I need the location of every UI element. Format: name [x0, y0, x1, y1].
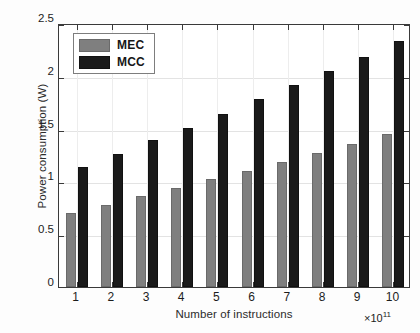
y-tick-label: 1 — [18, 170, 54, 182]
x-tick-label: 3 — [143, 290, 150, 304]
bar-mcc-2 — [113, 154, 123, 287]
x-tick-mark — [77, 25, 78, 30]
legend-label-mcc: MCC — [117, 55, 145, 69]
x-tick-mark — [323, 25, 324, 30]
x-tick-label: 1 — [72, 290, 79, 304]
y-tick-mark — [404, 236, 409, 237]
y-tick-label: 2 — [18, 65, 54, 77]
x-tick-label: 2 — [107, 290, 114, 304]
x-tick-label: 9 — [354, 290, 361, 304]
y-tick-mark — [59, 236, 64, 237]
plot-area: MEC MCC — [58, 24, 410, 288]
x-tick-label: 4 — [178, 290, 185, 304]
y-tick-mark — [59, 131, 64, 132]
exponent-prefix: ×10 — [364, 312, 383, 324]
bar-mcc-8 — [324, 71, 334, 287]
y-tick-mark — [404, 131, 409, 132]
x-tick-label: 10 — [386, 290, 399, 304]
x-axis-title: Number of instructions — [58, 308, 410, 320]
x-tick-mark — [217, 25, 218, 30]
legend-label-mec: MEC — [117, 38, 144, 52]
bar-mec-2 — [101, 205, 111, 287]
y-tick-label: 0 — [18, 276, 54, 288]
x-tick-mark — [288, 25, 289, 30]
chart-legend: MEC MCC — [73, 33, 155, 74]
legend-swatch-mcc-icon — [79, 56, 110, 69]
x-axis-tick-labels: 12345678910 — [58, 290, 410, 308]
x-tick-label: 8 — [319, 290, 326, 304]
x-tick-label: 6 — [248, 290, 255, 304]
bar-mec-4 — [171, 188, 181, 287]
bar-mec-7 — [277, 162, 287, 287]
x-tick-label: 7 — [283, 290, 290, 304]
exponent-power: 11 — [383, 310, 391, 319]
legend-swatch-mec-icon — [79, 39, 110, 52]
bar-mcc-10 — [394, 41, 404, 287]
x-tick-mark — [393, 25, 394, 30]
bar-mec-10 — [382, 134, 392, 287]
y-tick-label: 0.5 — [18, 223, 54, 235]
bar-mcc-1 — [78, 167, 88, 287]
legend-item-mcc: MCC — [79, 55, 145, 69]
y-tick-mark — [59, 183, 64, 184]
y-tick-mark — [404, 25, 409, 26]
y-tick-mark — [59, 25, 64, 26]
chart-figure: Power consumption (W) 00.511.522.5 MEC M… — [0, 0, 420, 333]
bar-mec-9 — [347, 144, 357, 287]
x-tick-mark — [147, 25, 148, 30]
x-tick-mark — [358, 25, 359, 30]
x-axis-exponent: ×1011 — [364, 310, 391, 324]
x-tick-label: 5 — [213, 290, 220, 304]
bar-mec-1 — [66, 213, 76, 287]
bar-mcc-4 — [183, 128, 193, 287]
x-tick-mark — [182, 25, 183, 30]
bar-mec-6 — [242, 171, 252, 287]
y-axis-tick-labels: 00.511.522.5 — [18, 18, 54, 288]
y-tick-mark — [59, 78, 64, 79]
x-tick-mark — [112, 25, 113, 30]
bar-mcc-3 — [148, 140, 158, 287]
x-tick-mark — [253, 25, 254, 30]
bar-mcc-6 — [254, 99, 264, 287]
bar-mcc-5 — [218, 114, 228, 287]
bar-mec-8 — [312, 153, 322, 287]
bar-mcc-7 — [289, 85, 299, 287]
y-tick-label: 2.5 — [18, 12, 54, 24]
bar-mec-3 — [136, 196, 146, 287]
legend-item-mec: MEC — [79, 38, 145, 52]
y-tick-label: 1.5 — [18, 118, 54, 130]
bar-mec-5 — [206, 179, 216, 287]
y-tick-mark — [404, 78, 409, 79]
y-tick-mark — [404, 183, 409, 184]
bar-mcc-9 — [359, 57, 369, 287]
